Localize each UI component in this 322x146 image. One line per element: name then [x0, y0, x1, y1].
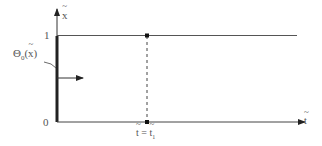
bottom-point: [145, 120, 149, 124]
boundary-label: Θ0(x): [13, 47, 37, 62]
top-point: [145, 34, 149, 38]
label-leader-line: [44, 62, 56, 68]
x-axis-label: t: [304, 115, 307, 126]
y-tick-1: 1: [44, 29, 50, 41]
y-axis-label: x: [62, 9, 68, 21]
t-equals-t1-label: t = t1: [136, 127, 155, 140]
y-tick-0: 0: [43, 116, 49, 128]
